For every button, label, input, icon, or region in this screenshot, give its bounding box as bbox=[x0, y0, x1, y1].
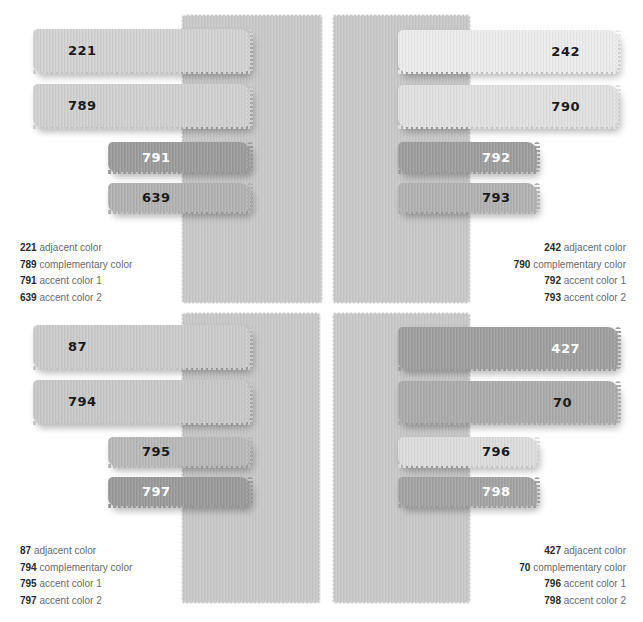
legend-row-accent-1: 796 accent color 1 bbox=[519, 576, 626, 593]
legend-row-complementary: 70 complementary color bbox=[519, 560, 626, 577]
swatch-code: 798 bbox=[482, 484, 511, 499]
swatch-bar-complementary: 70 bbox=[398, 381, 618, 423]
swatch-bar-accent-1: 796 bbox=[398, 437, 537, 466]
swatch-code: 427 bbox=[551, 341, 580, 356]
swatch-code: 796 bbox=[482, 444, 511, 459]
legend-row-accent-2: 798 accent color 2 bbox=[519, 593, 626, 610]
color-legend: 427 adjacent color 70 complementary colo… bbox=[519, 543, 626, 610]
swatch-bar-adjacent: 427 bbox=[398, 327, 618, 369]
swatch-code: 70 bbox=[553, 395, 572, 410]
palette-panel-bottom-right: 427 70 796 798 427 adjacent color 70 com… bbox=[0, 0, 643, 622]
swatch-bar-accent-2: 798 bbox=[398, 477, 537, 506]
legend-row-adjacent: 427 adjacent color bbox=[519, 543, 626, 560]
